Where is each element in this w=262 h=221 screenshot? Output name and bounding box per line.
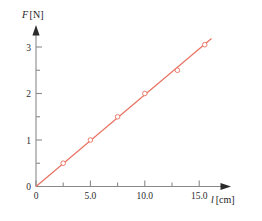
x-tick-label: 0 <box>34 191 39 201</box>
x-tick-label: 5.0 <box>84 191 96 201</box>
y-axis-unit: [N] <box>30 9 44 20</box>
y-axis-variable: F <box>21 9 29 20</box>
x-axis-title: l[cm] <box>211 194 235 205</box>
data-point-marker <box>115 115 120 120</box>
plot-canvas: 0 5.0 10.0 15.0 0 1 2 3 F[N] l[cm] <box>0 0 262 221</box>
x-axis-unit: [cm] <box>216 194 235 205</box>
y-tick-label: 0 <box>26 182 31 192</box>
y-tick-label: 3 <box>26 43 31 53</box>
data-point-marker <box>202 42 207 47</box>
y-axis-arrow-icon <box>32 25 39 36</box>
x-axis-variable: l <box>211 194 214 205</box>
y-tick-label: 1 <box>26 136 31 146</box>
x-axis-arrow-icon <box>221 183 232 190</box>
chart-figure: 0 5.0 10.0 15.0 0 1 2 3 F[N] l[cm] <box>0 0 262 221</box>
y-tick-label: 2 <box>26 89 31 99</box>
data-point-marker <box>88 138 93 143</box>
x-axis-minor-ticks <box>63 183 172 187</box>
data-point-marker <box>175 68 180 73</box>
x-tick-label: 10.0 <box>136 191 153 201</box>
x-tick-label: 15.0 <box>191 191 208 201</box>
data-point-marker <box>143 91 148 96</box>
data-point-marker <box>61 161 66 166</box>
y-axis-minor-ticks <box>36 70 40 163</box>
y-axis-title: F[N] <box>21 9 44 20</box>
